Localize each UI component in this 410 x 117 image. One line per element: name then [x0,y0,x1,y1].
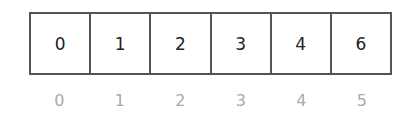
array-cell-2: 2 [149,14,209,73]
index-label-4: 4 [271,88,332,112]
index-label-5: 5 [332,88,393,112]
index-label-0: 0 [29,88,90,112]
array-cell-1: 1 [89,14,149,73]
array-diagram: 0 1 2 3 4 6 [29,12,392,75]
array-cell-4: 4 [270,14,330,73]
index-label-3: 3 [211,88,272,112]
index-label-1: 1 [90,88,151,112]
array-index-labels: 0 1 2 3 4 5 [29,88,392,112]
index-label-2: 2 [150,88,211,112]
array-cell-5: 6 [330,14,390,73]
array-cell-3: 3 [210,14,270,73]
array-cell-0: 0 [31,14,89,73]
